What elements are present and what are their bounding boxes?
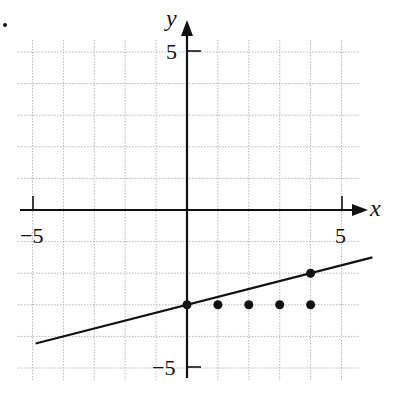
data-point <box>275 300 284 309</box>
data-point <box>213 300 222 309</box>
x-tick-label-5: 5 <box>335 223 346 248</box>
y-tick-label-5: 5 <box>166 39 177 64</box>
data-point <box>183 300 192 309</box>
y-tick-label-neg5: −5 <box>152 355 175 380</box>
data-point <box>306 300 315 309</box>
y-axis-arrow-icon <box>181 20 193 36</box>
x-axis-arrow-icon <box>352 204 368 216</box>
plotted-line <box>36 257 373 343</box>
data-point <box>244 300 253 309</box>
plot-data <box>36 257 373 343</box>
stray-mark <box>3 23 7 27</box>
data-point <box>306 269 315 278</box>
coordinate-plane: x y −5 5 5 −5 <box>0 0 397 398</box>
x-tick-label-neg5: −5 <box>20 223 43 248</box>
x-axis-label: x <box>369 195 381 221</box>
y-axis-label: y <box>164 5 177 31</box>
